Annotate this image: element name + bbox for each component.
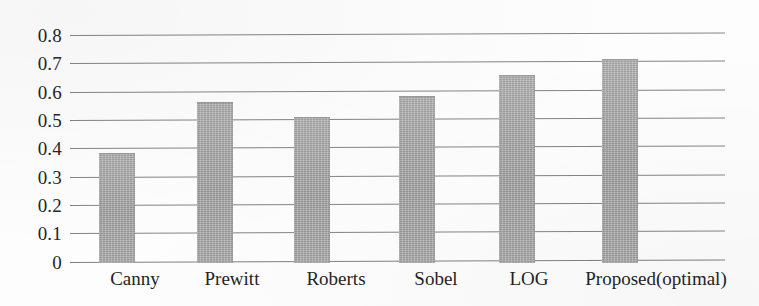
ytick-label-0.7: 0.7 — [18, 54, 62, 73]
ytick-label-0.1: 0.1 — [18, 224, 62, 243]
bar-prewitt[interactable] — [197, 102, 233, 263]
xtick-label-proposed: Proposed(optimal) — [558, 268, 754, 290]
ytick-label-0.6: 0.6 — [18, 83, 62, 102]
bar-proposed[interactable] — [602, 59, 638, 263]
bar-log[interactable] — [499, 75, 535, 263]
gridline-0.8 — [70, 32, 725, 36]
ytick-label-0: 0 — [18, 253, 62, 272]
bar-chart: 0.8 0.7 0.6 0.5 0.4 0.3 0.2 0.1 0 Canny … — [0, 0, 759, 306]
ytick-label-0.2: 0.2 — [18, 196, 62, 215]
bar-sobel[interactable] — [399, 96, 435, 263]
bar-canny[interactable] — [99, 153, 135, 263]
bar-roberts[interactable] — [294, 117, 330, 263]
ytick-label-0.4: 0.4 — [18, 139, 62, 158]
ytick-label-0.3: 0.3 — [18, 168, 62, 187]
ytick-label-0.8: 0.8 — [18, 26, 62, 45]
chart-page: 0.8 0.7 0.6 0.5 0.4 0.3 0.2 0.1 0 Canny … — [0, 0, 759, 306]
ytick-label-0.5: 0.5 — [18, 111, 62, 130]
